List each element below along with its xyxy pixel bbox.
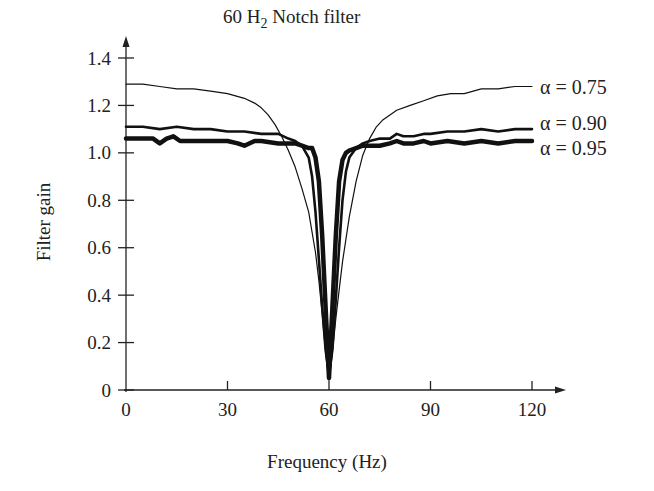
y-tick-label: 0 [102,380,112,401]
x-tick-label: 0 [121,399,131,420]
y-axis-title: Filter gain [33,182,54,261]
x-axis-arrow-icon [555,387,566,394]
y-tick-label: 0.4 [87,285,111,306]
y-tick-label: 1.4 [87,48,111,69]
y-axis-ticks: 00.20.40.60.81.01.21.4 [87,48,134,401]
y-tick-label: 0.6 [87,237,111,258]
x-tick-label: 90 [421,399,440,420]
x-axis-title: Frequency (Hz) [267,451,387,473]
y-tick-label: 0.2 [87,332,111,353]
chart-title: 60 H2 Notch filter [223,6,361,31]
legend-label-alpha-095: α = 0.95 [540,137,607,159]
legend-label-alpha-090: α = 0.90 [540,112,607,134]
x-tick-label: 120 [518,399,547,420]
legend: α = 0.75 α = 0.90 α = 0.95 [540,76,607,159]
notch-filter-chart: 60 H2 Notch filter 00.20.40.60.81.01.21.… [0,0,654,491]
legend-label-alpha-075: α = 0.75 [540,76,607,98]
x-axis-ticks: 0306090120 [121,381,546,420]
y-tick-label: 1.2 [87,95,111,116]
series-group [126,84,532,380]
y-axis-arrow-icon [123,36,130,47]
y-tick-label: 1.0 [87,142,111,163]
y-tick-label: 0.8 [87,190,111,211]
series-line-alpha-095 [126,136,532,378]
x-tick-label: 60 [320,399,339,420]
x-tick-label: 30 [218,399,237,420]
